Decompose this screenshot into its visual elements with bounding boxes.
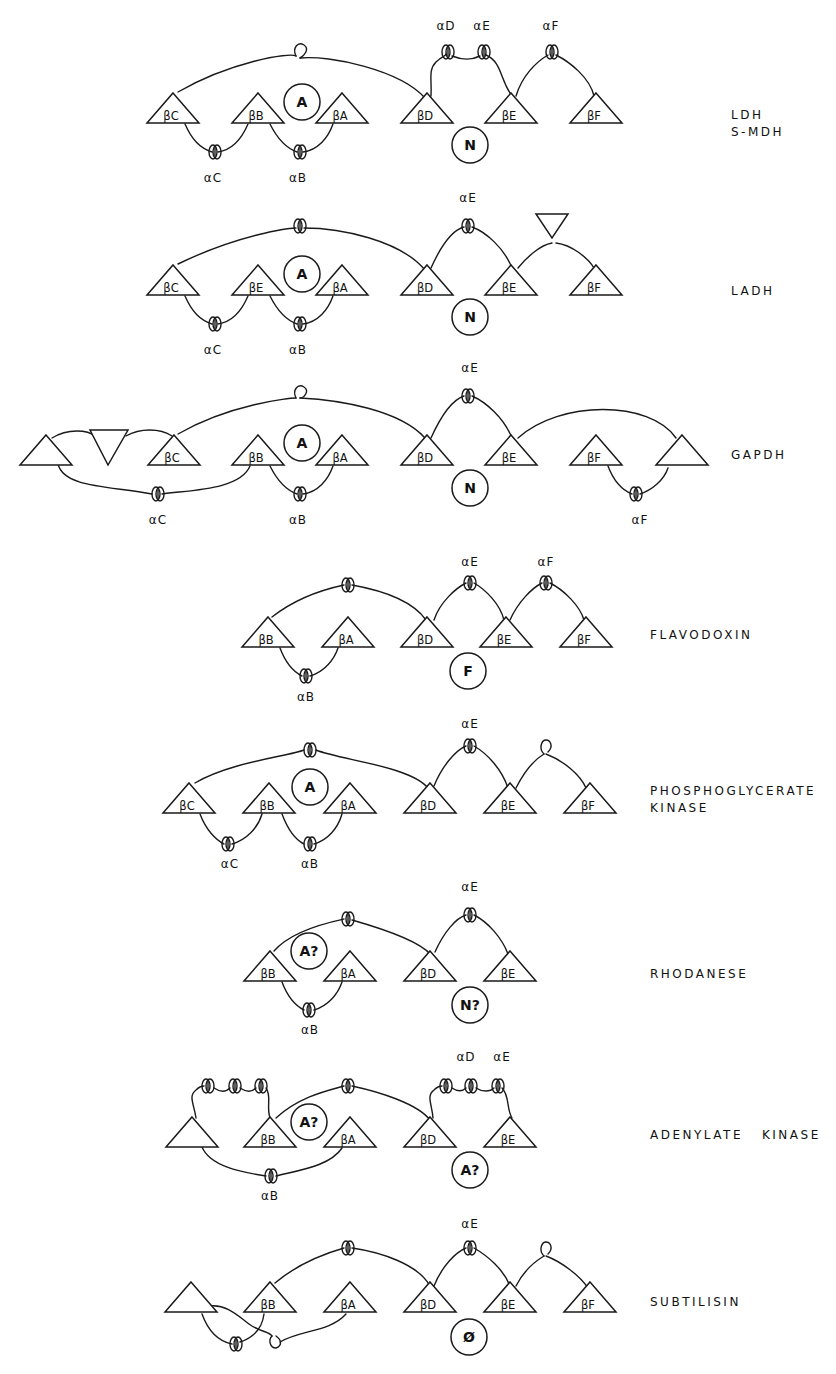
strand-label: βF <box>587 451 601 465</box>
alpha-helix-icon <box>492 1079 504 1093</box>
beta-strand-triangle: βE <box>485 93 537 123</box>
strand-label: βD <box>420 1133 436 1147</box>
helix-label: αB <box>289 171 307 185</box>
beta-strand-triangle <box>165 1282 217 1312</box>
alpha-helix-icon <box>442 45 454 59</box>
helix-label: αE <box>473 19 491 33</box>
strand-label: βE <box>502 281 517 295</box>
domain-circle: A <box>292 769 328 805</box>
strand-label: βD <box>420 799 436 813</box>
beta-strand-triangle: βA <box>324 783 376 813</box>
domain-circle: A <box>284 425 320 461</box>
strand-label: βE <box>249 281 264 295</box>
strand-label: βF <box>587 109 601 123</box>
strand-label: βD <box>417 109 433 123</box>
strand-label: βB <box>260 1133 275 1147</box>
alpha-helix-icon <box>265 1169 277 1183</box>
beta-strand-triangle <box>166 1117 218 1147</box>
helix-label: αE <box>461 717 479 731</box>
beta-strand-triangle: βA <box>316 93 368 123</box>
domain-circle: N <box>452 299 488 335</box>
helix-label: αE <box>461 1217 479 1231</box>
helix-label: αB <box>301 857 319 871</box>
strand-label: βF <box>581 1298 595 1312</box>
domain-circle: A? <box>452 1152 488 1188</box>
helix-label: αF <box>632 513 649 527</box>
strand-label: βD <box>420 967 436 981</box>
helix-labels: αCαBαDαEαFαCαBαEαCαBαEαFαBαEαFαCαBαEαBαE… <box>149 19 649 1231</box>
beta-strand-triangle: βB <box>244 1117 296 1147</box>
alpha-helix-icon <box>462 219 474 233</box>
beta-strand-triangle: βA <box>316 265 368 295</box>
domain-label: A <box>297 266 308 282</box>
domain-label: N? <box>460 997 480 1013</box>
domain-label: A <box>297 94 308 110</box>
beta-strand-triangle: βA <box>322 617 374 647</box>
domain-circle: A? <box>291 933 327 969</box>
domain-label: F <box>463 663 473 679</box>
beta-strand-triangle: βD <box>401 265 453 295</box>
helix-label: αE <box>461 361 479 375</box>
domain-label: N <box>464 309 476 325</box>
strand-label: βD <box>417 281 433 295</box>
domain-circle: F <box>450 653 486 689</box>
strand-label: βE <box>501 1298 516 1312</box>
protein-name-phosphoglycerate-kinase: PHOSPHOGLYCERATE KINASE <box>650 783 816 817</box>
domain-label: A? <box>300 1114 319 1130</box>
protein-name-rhodanese: RHODANESE <box>650 966 748 983</box>
domain-label: N <box>464 137 476 153</box>
inverted-triangle-gapdh <box>90 430 128 465</box>
domain-label: N <box>464 480 476 496</box>
strand-label: βC <box>163 281 178 295</box>
alpha-helix-icon <box>294 219 306 233</box>
domain-circle: Ø <box>451 1319 487 1355</box>
strand-label: βD <box>417 633 433 647</box>
beta-strand-triangle: βE <box>485 265 537 295</box>
strand-label: βA <box>338 633 353 647</box>
strand-label: βE <box>497 633 512 647</box>
strand-label: βE <box>501 799 516 813</box>
strand-label: βB <box>248 109 263 123</box>
strand-label: βF <box>577 633 591 647</box>
strand-label: βB <box>260 1298 275 1312</box>
strand-label: βA <box>340 967 355 981</box>
inverted-triangle-ladh <box>536 214 568 238</box>
domain-circle: A? <box>291 1104 327 1140</box>
protein-name-adenylate-kinase: ADENYLATE KINASE <box>650 1127 821 1144</box>
helix-label: αE <box>493 1050 511 1064</box>
helix-label: αB <box>297 690 315 704</box>
beta-strand-triangle: βD <box>404 1117 456 1147</box>
strand-label: βF <box>581 799 595 813</box>
strand-label: βA <box>340 1298 355 1312</box>
beta-strand-triangle: βB <box>244 951 296 981</box>
beta-strand-triangle: βE <box>484 1282 536 1312</box>
domain-circle: N <box>452 127 488 163</box>
domain-label: A <box>305 779 316 795</box>
strand-label: βB <box>248 451 263 465</box>
beta-strand-triangle: βF <box>570 93 622 123</box>
helix-label: αB <box>289 513 307 527</box>
beta-strand-triangle: βF <box>564 1282 616 1312</box>
helix-coils <box>152 45 642 1351</box>
topology-figure: βCβBβAβDβEβFβCβEβAβDβEβFβCβBβAβDβEβFβBβA… <box>0 0 836 1374</box>
beta-strand-triangle: βF <box>564 783 616 813</box>
beta-strand-triangle: βE <box>484 951 536 981</box>
beta-strand-triangle: βD <box>401 93 453 123</box>
domain-circle: A <box>284 256 320 292</box>
beta-strand-triangle: βC <box>148 435 200 465</box>
beta-strand-triangle: βB <box>232 93 284 123</box>
alpha-helix-icon <box>304 743 316 757</box>
beta-strand-triangle: βC <box>147 265 199 295</box>
strand-label: βA <box>332 281 347 295</box>
beta-strand-triangle: βF <box>560 617 612 647</box>
beta-strand-triangle <box>656 435 708 465</box>
strand-label: βC <box>164 451 179 465</box>
beta-strand-triangle: βC <box>163 783 215 813</box>
protein-name-flavodoxin: FLAVODOXIN <box>650 627 752 644</box>
domain-label: A <box>297 435 308 451</box>
helix-label: αD <box>436 19 455 33</box>
beta-strand-triangle: βE <box>485 435 537 465</box>
helix-label: αC <box>221 857 239 871</box>
strand-label: βB <box>260 967 275 981</box>
strand-label: βA <box>332 109 347 123</box>
